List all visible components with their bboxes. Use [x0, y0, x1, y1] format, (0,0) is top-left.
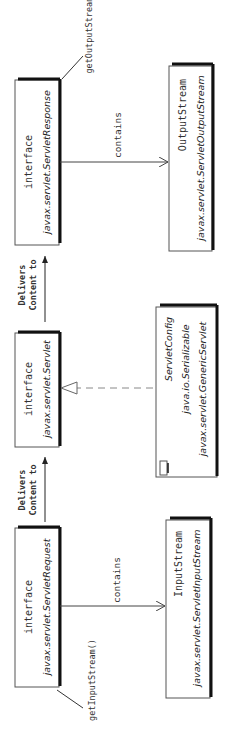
generic-line2: java.io.Serializable — [180, 324, 191, 415]
servlet-name: javax.servlet.Servlet — [41, 339, 52, 440]
output-name: javax.servlet.ServletOutputStream — [195, 75, 206, 242]
servlet-stereotype: interface — [23, 362, 34, 416]
request-note-line — [57, 690, 83, 708]
response-name: javax.servlet.ServletResponse — [41, 90, 52, 236]
generic-line1: ServletConfig — [163, 317, 174, 381]
delivers-label-1a: Delivers — [17, 265, 27, 306]
response-note-line — [62, 56, 83, 79]
request-note: getInputStream() — [87, 639, 97, 721]
output-stream-box: OutputStream javax.servlet.ServletOutput… — [169, 64, 213, 251]
delivers-label-1b: Content to — [28, 259, 38, 310]
response-note: getOutputStream() — [84, 0, 94, 74]
servlet-request-box: interface javax.servlet.ServletRequest — [15, 527, 60, 687]
contains-label-input: contains — [111, 557, 122, 603]
input-stream-box: InputStream javax.servlet.ServletInputSt… — [166, 518, 211, 698]
input-stereotype: InputStream — [173, 531, 184, 597]
response-stereotype: interface — [23, 135, 34, 189]
request-name: javax.servlet.ServletRequest — [41, 537, 52, 677]
contains-label-output: contains — [112, 112, 123, 158]
servlet-response-box: interface javax.servlet.ServletResponse — [15, 79, 60, 245]
delivers-label-2a: Delivers — [17, 470, 27, 511]
output-stereotype: OutputStream — [177, 79, 188, 151]
delivers-label-2b: Content to — [28, 464, 38, 515]
realization-arrowhead — [61, 382, 77, 394]
request-stereotype: interface — [23, 580, 34, 634]
servlet-diagram: interface javax.servlet.ServletResponse … — [0, 0, 225, 743]
generic-line3: javax.servlet.GenericServlet — [197, 320, 208, 458]
servlet-box: interface javax.servlet.Servlet — [15, 332, 60, 447]
component-tab-icon — [160, 461, 167, 475]
generic-servlet-box: ServletConfig java.io.Serializable javax… — [156, 305, 217, 477]
input-name: javax.servlet.ServletInputStream — [191, 530, 202, 689]
